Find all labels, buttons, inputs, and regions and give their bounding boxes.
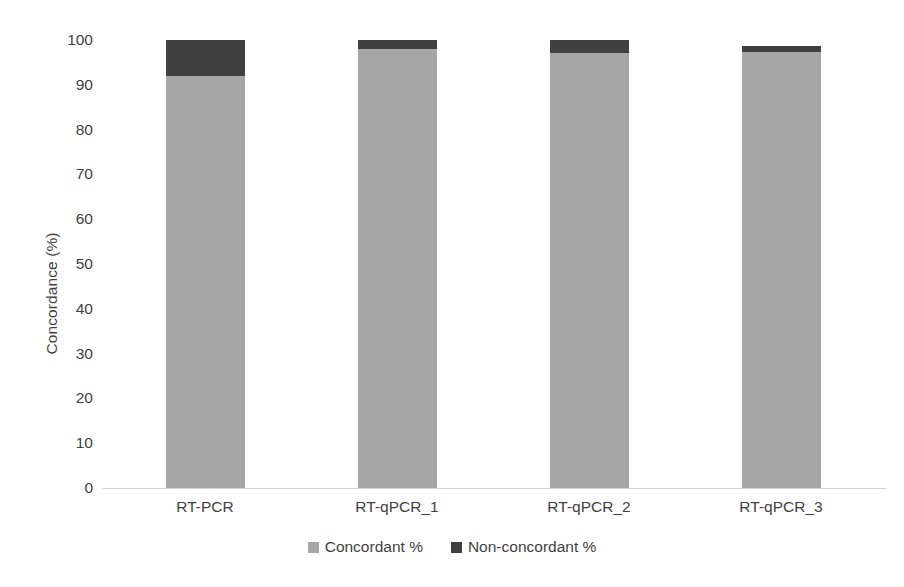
y-tick-label: 20 [51, 391, 93, 407]
bar-group-rt-pcr[interactable] [166, 40, 245, 488]
x-tick-label-rt-qpcr-1: RT-qPCR_1 [312, 498, 482, 516]
x-axis-line [103, 488, 887, 489]
plot-area [103, 40, 880, 488]
y-tick-label: 40 [51, 301, 93, 317]
bar-segment-non-concordant[interactable] [166, 40, 245, 76]
bar-segment-non-concordant[interactable] [550, 40, 629, 53]
legend-label: Non-concordant % [468, 538, 596, 556]
bar-group-rt-qpcr-3[interactable] [742, 46, 821, 488]
bar-segment-concordant[interactable] [742, 52, 821, 488]
y-axis-tick-labels: 100 90 80 70 60 50 40 30 20 10 0 [43, 0, 93, 587]
legend-entry-non-concordant[interactable]: Non-concordant % [451, 538, 596, 556]
bar-group-rt-qpcr-1[interactable] [358, 40, 437, 488]
legend-swatch-icon [308, 542, 319, 553]
legend-swatch-icon [451, 542, 462, 553]
y-tick-label: 60 [51, 211, 93, 227]
y-tick-label: 10 [51, 435, 93, 451]
y-tick-label: 100 [51, 32, 93, 48]
chart-figure: Concordance (%) 100 90 80 70 60 50 40 30… [0, 0, 904, 587]
x-axis-tick-labels: RT-PCR RT-qPCR_1 RT-qPCR_2 RT-qPCR_3 [103, 498, 880, 524]
bar-segment-concordant[interactable] [550, 53, 629, 488]
legend-label: Concordant % [325, 538, 423, 556]
chart-legend: Concordant % Non-concordant % [0, 538, 904, 556]
y-tick-label: 80 [51, 122, 93, 138]
y-tick-label: 70 [51, 167, 93, 183]
x-tick-label-rt-qpcr-2: RT-qPCR_2 [504, 498, 674, 516]
y-tick-label: 30 [51, 346, 93, 362]
bar-segment-concordant[interactable] [166, 76, 245, 488]
x-tick-label-rt-pcr: RT-PCR [120, 498, 290, 516]
bar-segment-non-concordant[interactable] [358, 40, 437, 49]
legend-entry-concordant[interactable]: Concordant % [308, 538, 423, 556]
x-tick-label-rt-qpcr-3: RT-qPCR_3 [696, 498, 866, 516]
bar-segment-concordant[interactable] [358, 49, 437, 488]
y-tick-label: 50 [51, 256, 93, 272]
bar-group-rt-qpcr-2[interactable] [550, 40, 629, 488]
y-tick-label: 0 [51, 480, 93, 496]
y-tick-label: 90 [51, 77, 93, 93]
